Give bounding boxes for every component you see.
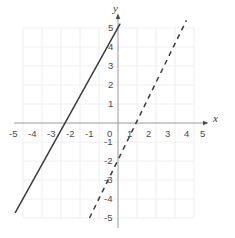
x-tick-label--5: -5 bbox=[9, 129, 17, 139]
y-tick-label--3: -3 bbox=[104, 175, 112, 185]
x-tick-label-5: 5 bbox=[200, 129, 205, 139]
y-tick-label--4: -4 bbox=[104, 194, 112, 204]
x-tick-label--4: -4 bbox=[28, 129, 36, 139]
x-tick-label-1: 1 bbox=[127, 129, 132, 139]
series-dashed-line bbox=[90, 20, 187, 218]
y-tick-label--1: -1 bbox=[104, 137, 112, 147]
x-tick-label--2: -2 bbox=[66, 129, 74, 139]
y-tick-label--5: -5 bbox=[104, 213, 112, 223]
y-tick-label--2: -2 bbox=[104, 156, 112, 166]
x-tick-label--1: -1 bbox=[85, 129, 93, 139]
coordinate-plane-figure: -5 -4 -3 -2 -1 0 1 2 3 4 5 5 4 3 2 1 -1 … bbox=[0, 0, 235, 238]
y-tick-label-3: 3 bbox=[108, 61, 113, 71]
x-tick-label-3: 3 bbox=[165, 129, 170, 139]
x-tick-label--3: -3 bbox=[47, 129, 55, 139]
y-tick-label-2: 2 bbox=[108, 80, 113, 90]
x-tick-label-4: 4 bbox=[184, 129, 189, 139]
y-tick-label-1: 1 bbox=[108, 99, 113, 109]
y-tick-label-5: 5 bbox=[108, 23, 113, 33]
graph-canvas bbox=[0, 0, 235, 238]
x-tick-label-2: 2 bbox=[146, 129, 151, 139]
x-axis-label: x bbox=[213, 113, 218, 124]
y-tick-label-4: 4 bbox=[108, 42, 113, 52]
y-axis-label: y bbox=[113, 3, 118, 14]
